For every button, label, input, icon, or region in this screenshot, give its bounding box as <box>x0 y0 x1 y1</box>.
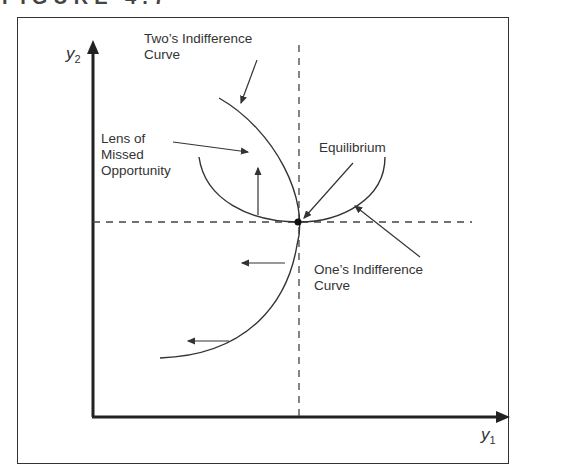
twos-curve-label: Two’s Indifference Curve <box>144 31 252 63</box>
equilibrium-pointer <box>304 163 353 218</box>
twos-curve-pointer <box>241 60 257 103</box>
ones-curve-label: One’s Indifference Curve <box>314 262 423 294</box>
ones-curve-pointer <box>355 206 420 257</box>
diagram-canvas <box>0 0 568 468</box>
lens-label: Lens of Missed Opportunity <box>101 131 171 179</box>
x-axis <box>92 411 510 423</box>
equilibrium-point <box>295 219 302 226</box>
lens-pointer <box>173 142 248 152</box>
y-axis <box>87 40 99 417</box>
ones-indifference-curve <box>199 157 385 222</box>
x-axis-label: y1 <box>481 427 496 448</box>
equilibrium-label: Equilibrium <box>319 140 386 156</box>
y-axis-label: y2 <box>66 46 81 67</box>
twos-indifference-curve <box>160 98 300 358</box>
